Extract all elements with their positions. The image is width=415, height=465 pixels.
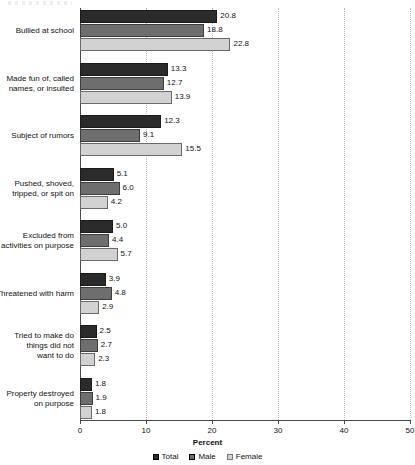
bar-total [80, 220, 113, 233]
bar-row: 9.1 [80, 129, 410, 142]
bar-chart: 01020304050 20.818.822.813.312.713.912.3… [0, 0, 415, 465]
bar-value-label: 1.8 [95, 379, 106, 388]
bar-value-label: 5.1 [117, 169, 128, 178]
bar-value-label: 22.8 [233, 39, 249, 48]
category-label-line: Excluded from [0, 231, 74, 241]
bar-total [80, 10, 217, 23]
legend-label: Total [162, 452, 179, 461]
bar-value-label: 4.4 [112, 235, 123, 244]
bar-value-label: 20.8 [220, 11, 236, 20]
category-label-line: Subject of rumors [0, 131, 74, 141]
category-label: Property destroyedon purpose [0, 389, 74, 409]
bar-group: 5.16.04.2 [80, 168, 410, 210]
bar-row: 4.4 [80, 234, 410, 247]
bar-row: 22.8 [80, 38, 410, 51]
bar-group: 20.818.822.8 [80, 10, 410, 52]
bar-value-label: 6.0 [123, 183, 134, 192]
category-label: Tried to make dothings did notwant to do [0, 331, 74, 361]
bar-female [80, 91, 172, 104]
x-tick [80, 420, 81, 424]
bar-row: 15.5 [80, 143, 410, 156]
bar-row: 4.8 [80, 287, 410, 300]
bar-row: 12.7 [80, 77, 410, 90]
bar-row: 5.7 [80, 248, 410, 261]
bar-row: 2.7 [80, 339, 410, 352]
bar-female [80, 248, 118, 261]
legend-item-total: Total [153, 452, 179, 461]
bar-male [80, 24, 204, 37]
bar-row: 18.8 [80, 24, 410, 37]
bar-total [80, 63, 168, 76]
bar-female [80, 353, 95, 366]
category-label-line: things did not [0, 341, 74, 351]
x-tick [146, 420, 147, 424]
category-label-line: Bullied at school [0, 26, 74, 36]
bar-row: 20.8 [80, 10, 410, 23]
legend-swatch-female [227, 454, 233, 460]
bar-row: 6.0 [80, 182, 410, 195]
x-tick-label: 10 [142, 426, 151, 435]
bar-group: 3.94.82.9 [80, 273, 410, 315]
bar-value-label: 3.9 [109, 274, 120, 283]
bar-row: 13.3 [80, 63, 410, 76]
bar-value-label: 13.9 [175, 92, 191, 101]
bar-row: 2.3 [80, 353, 410, 366]
category-label-line: want to do [0, 351, 74, 361]
bar-total [80, 325, 97, 338]
bar-female [80, 406, 92, 419]
bar-group: 2.52.72.3 [80, 325, 410, 367]
bar-row: 1.9 [80, 392, 410, 405]
x-tick-label: 30 [274, 426, 283, 435]
bar-value-label: 9.1 [143, 130, 154, 139]
legend-item-male: Male [189, 452, 215, 461]
bar-male [80, 234, 109, 247]
x-tick [278, 420, 279, 424]
category-label-line: Made fun of, called [0, 74, 74, 84]
bar-total [80, 273, 106, 286]
category-label: Pushed, shoved,tripped, or spit on [0, 179, 74, 199]
category-label-line: activities on purpose [0, 241, 74, 251]
bar-male [80, 77, 164, 90]
bar-value-label: 5.7 [121, 249, 132, 258]
bar-female [80, 38, 230, 51]
x-tick-label: 40 [340, 426, 349, 435]
category-label-line: on purpose [0, 399, 74, 409]
bar-value-label: 2.5 [100, 326, 111, 335]
bar-male [80, 392, 93, 405]
bar-female [80, 196, 108, 209]
bar-value-label: 12.7 [167, 78, 183, 87]
category-label: Threatened with harm [0, 289, 74, 299]
category-label-line: Property destroyed [0, 389, 74, 399]
x-tick [212, 420, 213, 424]
bar-row: 5.0 [80, 220, 410, 233]
bar-value-label: 2.3 [98, 354, 109, 363]
bar-value-label: 4.8 [115, 288, 126, 297]
category-label-line: Pushed, shoved, [0, 179, 74, 189]
bar-row: 12.3 [80, 115, 410, 128]
bar-value-label: 1.8 [95, 407, 106, 416]
bar-group: 12.39.115.5 [80, 115, 410, 157]
bar-total [80, 378, 92, 391]
x-tick [410, 420, 411, 424]
bar-female [80, 143, 182, 156]
bar-row: 2.9 [80, 301, 410, 314]
category-label-line: tripped, or spit on [0, 189, 74, 199]
x-tick-label: 20 [208, 426, 217, 435]
category-label-line: names, or insulted [0, 84, 74, 94]
bar-value-label: 2.7 [101, 340, 112, 349]
category-label-line: Tried to make do [0, 331, 74, 341]
bar-value-label: 1.9 [96, 393, 107, 402]
category-label: Excluded fromactivities on purpose [0, 231, 74, 251]
bar-total [80, 168, 114, 181]
category-label: Made fun of, callednames, or insulted [0, 74, 74, 94]
bar-row: 3.9 [80, 273, 410, 286]
bar-male [80, 129, 140, 142]
x-tick-label: 50 [406, 426, 415, 435]
category-label: Bullied at school [0, 26, 74, 36]
bar-male [80, 182, 120, 195]
bar-female [80, 301, 99, 314]
bar-row: 1.8 [80, 406, 410, 419]
gridline [410, 8, 411, 420]
bar-row: 5.1 [80, 168, 410, 181]
category-label-line: Threatened with harm [0, 289, 74, 299]
